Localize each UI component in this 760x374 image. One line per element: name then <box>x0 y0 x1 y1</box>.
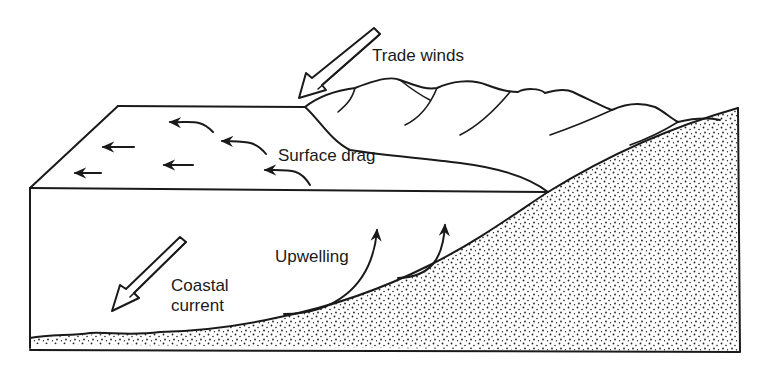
surface-drag-arrows <box>75 122 310 185</box>
trade-winds-label: Trade winds <box>372 46 464 65</box>
surface-drag-label: Surface drag <box>278 146 375 165</box>
coastal-current-label-line1: Coastal <box>171 276 229 295</box>
stippled-seabed-slope <box>30 108 740 352</box>
trade-winds-arrow <box>299 28 380 98</box>
coastal-upwelling-diagram: Trade winds Surface drag Upwelling Coast… <box>0 0 760 374</box>
coastal-current-label-line2: current <box>171 296 224 315</box>
upwelling-label: Upwelling <box>275 247 349 266</box>
